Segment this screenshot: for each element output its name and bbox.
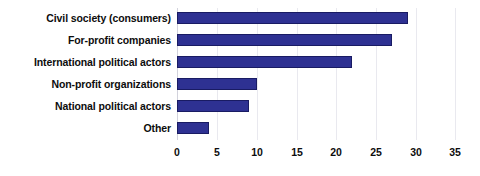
x-tick-35: 35: [449, 146, 461, 159]
plot-area: [177, 8, 456, 140]
gridline-15: [297, 8, 298, 140]
x-tick-30: 30: [410, 146, 422, 159]
category-label-other: Other: [0, 122, 171, 134]
x-tick-0: 0: [174, 146, 180, 159]
gridline-25: [376, 8, 377, 140]
x-tick-10: 10: [251, 146, 263, 159]
x-tick-15: 15: [291, 146, 303, 159]
gridline-35: [455, 8, 456, 140]
category-label-civil-society: Civil society (consumers): [0, 12, 171, 24]
gridline-10: [257, 8, 258, 140]
x-tick-20: 20: [330, 146, 342, 159]
bar-national-actors: [177, 100, 249, 112]
bar-international-actors: [177, 56, 352, 68]
category-label-international-actors: International political actors: [0, 56, 171, 68]
x-tick-5: 5: [214, 146, 220, 159]
bar-civil-society: [177, 12, 408, 24]
gridline-30: [416, 8, 417, 140]
bar-other: [177, 122, 209, 134]
category-axis: Civil society (consumers) For-profit com…: [0, 8, 171, 140]
gridline-0: [177, 8, 178, 140]
x-axis-line: [177, 140, 456, 141]
category-label-non-profit: Non-profit organizations: [0, 78, 171, 90]
x-axis-ticks: 0 5 10 15 20 25 30 35: [177, 146, 456, 162]
bar-chart: Civil society (consumers) For-profit com…: [0, 0, 480, 176]
x-tick-25: 25: [370, 146, 382, 159]
bar-for-profit: [177, 34, 392, 46]
gridline-5: [217, 8, 218, 140]
gridline-20: [336, 8, 337, 140]
bar-non-profit: [177, 78, 257, 90]
category-label-national-actors: National political actors: [0, 100, 171, 112]
category-label-for-profit: For-profit companies: [0, 34, 171, 46]
